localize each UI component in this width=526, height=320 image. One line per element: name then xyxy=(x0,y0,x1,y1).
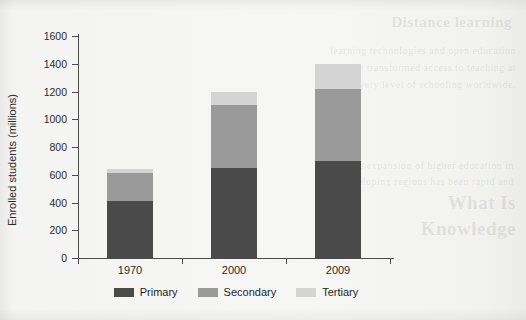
bar-segment-primary[interactable] xyxy=(315,161,361,258)
x-axis-label-2009: 2009 xyxy=(326,264,350,276)
y-axis-tick-label: 600 xyxy=(49,169,72,181)
scanned-page-background: Distance learning learning technologies … xyxy=(0,0,526,320)
bar-2000[interactable] xyxy=(211,36,257,258)
x-axis-tick xyxy=(390,259,391,264)
bar-segment-primary[interactable] xyxy=(211,168,257,258)
bar-1970[interactable] xyxy=(107,36,153,258)
x-axis-label-1970: 1970 xyxy=(118,264,142,276)
plot-area xyxy=(78,36,390,258)
bleed-through-text: Knowledge xyxy=(421,218,516,240)
legend-label: Primary xyxy=(140,286,178,298)
legend-label: Tertiary xyxy=(322,286,358,298)
legend-item-secondary[interactable]: Secondary xyxy=(198,286,277,298)
y-axis-title: Enrolled students (millions) xyxy=(6,94,18,226)
x-axis-tick xyxy=(78,259,79,264)
y-axis-tick-label: 0 xyxy=(61,252,72,264)
bleed-through-text: What Is xyxy=(448,192,516,214)
legend-swatch-icon xyxy=(114,288,134,297)
legend-swatch-icon xyxy=(198,288,218,297)
x-axis-line xyxy=(78,258,394,259)
x-axis-tick xyxy=(182,259,183,264)
y-axis-tick-label: 200 xyxy=(49,224,72,236)
bar-segment-secondary[interactable] xyxy=(107,173,153,201)
legend-item-tertiary[interactable]: Tertiary xyxy=(296,286,358,298)
y-axis-tick-label: 1000 xyxy=(44,113,72,125)
y-axis-tick-label: 400 xyxy=(49,197,72,209)
bar-2009[interactable] xyxy=(315,36,361,258)
y-axis-tick-label: 1400 xyxy=(44,58,72,70)
x-axis-tick xyxy=(286,259,287,264)
chart-legend: PrimarySecondaryTertiary xyxy=(78,284,394,300)
bar-segment-tertiary[interactable] xyxy=(211,92,257,106)
bar-segment-tertiary[interactable] xyxy=(107,169,153,173)
bar-segment-secondary[interactable] xyxy=(211,105,257,167)
y-axis-tick-label: 1600 xyxy=(44,30,72,42)
stacked-bar-chart: Enrolled students (millions) 02004006008… xyxy=(0,0,418,320)
bar-segment-tertiary[interactable] xyxy=(315,64,361,89)
y-axis-tick-label: 1200 xyxy=(44,86,72,98)
legend-swatch-icon xyxy=(296,288,316,297)
y-axis-tick-label: 800 xyxy=(49,141,72,153)
bar-segment-primary[interactable] xyxy=(107,201,153,258)
bar-segment-secondary[interactable] xyxy=(315,89,361,161)
legend-label: Secondary xyxy=(224,286,277,298)
legend-item-primary[interactable]: Primary xyxy=(114,286,178,298)
x-axis-label-2000: 2000 xyxy=(222,264,246,276)
